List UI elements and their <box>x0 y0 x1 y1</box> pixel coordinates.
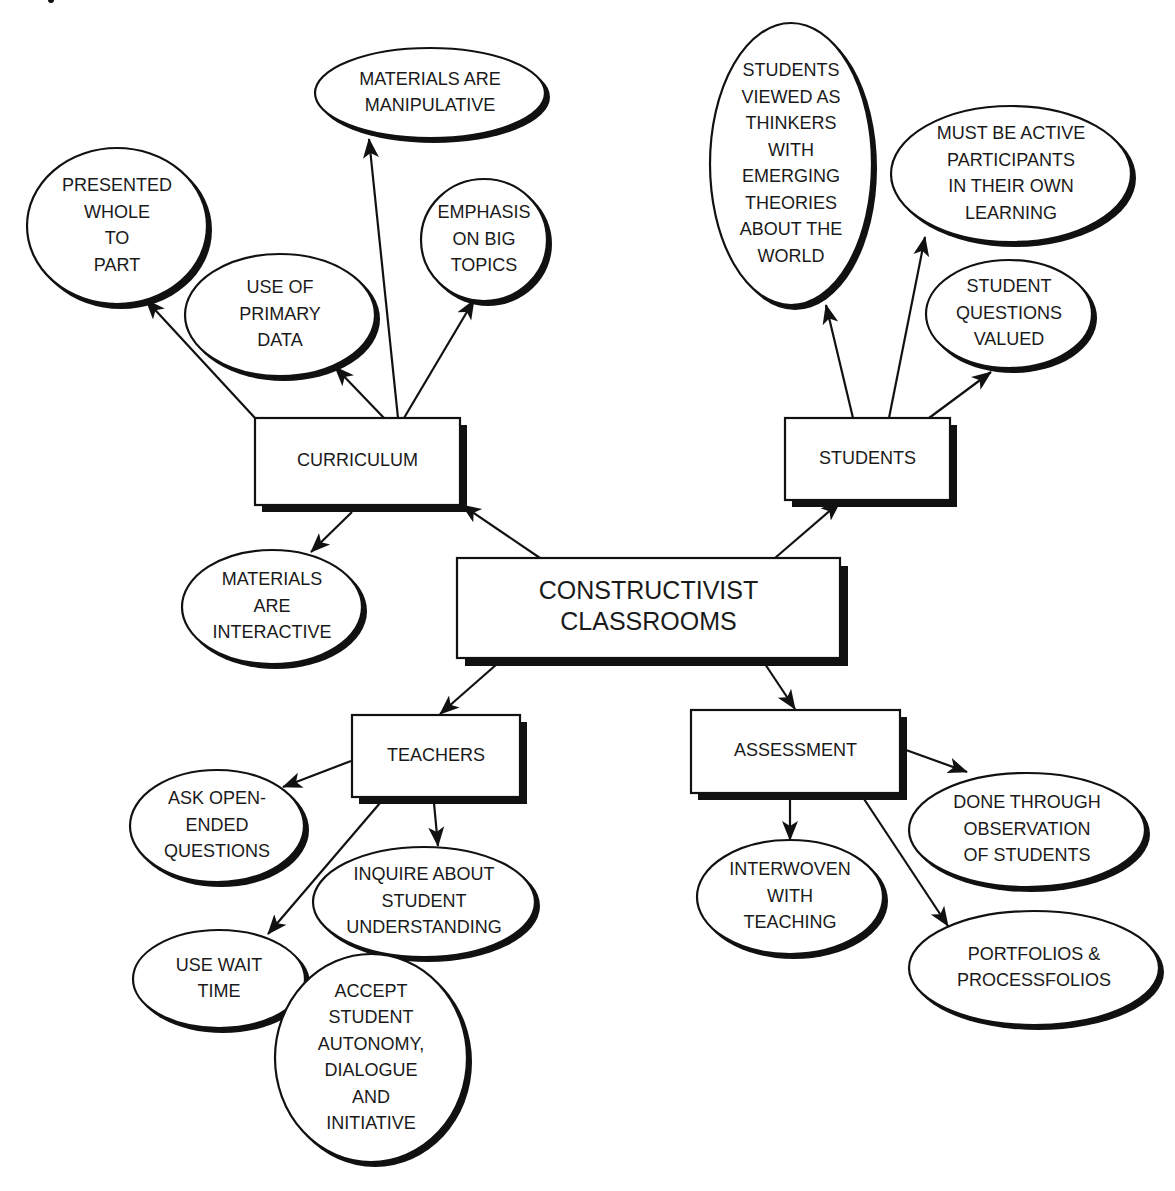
node-label-line: WITH <box>768 140 814 160</box>
arrow-center-to-teachers <box>440 664 497 714</box>
arrow-students-to-viewed <box>826 305 853 418</box>
accept-student-autonomy-node: ACCEPTSTUDENTAUTONOMY,DIALOGUEANDINITIAT… <box>275 954 472 1167</box>
node-label-line: AUTONOMY, <box>318 1034 424 1054</box>
arrow-curriculum-to-interactive <box>311 512 352 552</box>
ask-open-ended-questions-node: ASK OPEN-ENDEDQUESTIONS <box>130 770 309 887</box>
node-label-line: STUDENT <box>329 1007 414 1027</box>
arrow-center-to-students <box>775 502 840 558</box>
node-label-line: MATERIALS <box>222 569 323 589</box>
node-label-line: QUESTIONS <box>164 841 270 861</box>
node-label-line: UNDERSTANDING <box>346 917 502 937</box>
box-label-line: CURRICULUM <box>297 450 418 470</box>
arrow-assessment-to-observation <box>906 750 967 772</box>
teachers-box: TEACHERS <box>352 715 527 804</box>
emphasis-on-big-topics-node: EMPHASISON BIGTOPICS <box>421 179 552 306</box>
node-label-line: DIALOGUE <box>324 1060 417 1080</box>
node-label-line: ASK OPEN- <box>168 788 266 808</box>
node-label-line: MATERIALS ARE <box>359 69 501 89</box>
node-label-line: VALUED <box>974 329 1045 349</box>
students-box: STUDENTS <box>785 418 957 507</box>
arrow-center-to-curriculum <box>462 505 540 558</box>
node-label-line: OBSERVATION <box>963 819 1090 839</box>
node-label-line: INTERACTIVE <box>212 622 331 642</box>
box-label-line: STUDENTS <box>819 448 916 468</box>
node-outline <box>133 930 305 1028</box>
node-label-line: TEACHING <box>743 912 836 932</box>
node-label-line: PRIMARY <box>239 304 321 324</box>
node-label-line: EMPHASIS <box>437 202 530 222</box>
node-label-line: STUDENTS <box>742 60 839 80</box>
node-label-line: USE WAIT <box>176 955 262 975</box>
box-label-line: CONSTRUCTIVIST <box>539 576 758 604</box>
curriculum-box: CURRICULUM <box>255 418 467 512</box>
node-label-line: INQUIRE ABOUT <box>353 864 494 884</box>
node-outline <box>909 911 1159 1025</box>
done-through-observation-node: DONE THROUGHOBSERVATIONOF STUDENTS <box>909 773 1150 892</box>
node-label-line: THINKERS <box>745 113 836 133</box>
node-label-line: PRESENTED <box>62 175 172 195</box>
box-label-line: ASSESSMENT <box>734 740 857 760</box>
node-label-line: THEORIES <box>745 193 837 213</box>
node-label-line: STUDENT <box>382 891 467 911</box>
use-of-primary-data-node: USE OFPRIMARYDATA <box>185 254 380 381</box>
arrow-students-to-questions <box>929 372 991 418</box>
node-label-line: WITH <box>767 886 813 906</box>
arrow-curriculum-to-emphasis <box>404 300 474 418</box>
node-label-line: MUST BE ACTIVE <box>937 123 1086 143</box>
inquire-about-student-understanding-node: INQUIRE ABOUTSTUDENTUNDERSTANDING <box>313 847 540 962</box>
node-label-line: LEARNING <box>965 203 1057 223</box>
node-label-line: PROCESSFOLIOS <box>957 970 1111 990</box>
node-label-line: INTERWOVEN <box>729 859 851 879</box>
node-label-line: AND <box>352 1087 390 1107</box>
node-label-line: ACCEPT <box>334 981 407 1001</box>
node-label-line: TO <box>105 228 130 248</box>
node-label-line: PORTFOLIOS & <box>968 944 1101 964</box>
arrow-students-to-active <box>889 237 925 418</box>
node-label-line: INITIATIVE <box>326 1113 416 1133</box>
node-label-line: EMERGING <box>742 166 840 186</box>
node-label-line: VIEWED AS <box>741 87 840 107</box>
box-label-line: TEACHERS <box>387 745 485 765</box>
node-label-line: MANIPULATIVE <box>365 95 496 115</box>
node-label-line: ABOUT THE <box>740 219 842 239</box>
materials-are-manipulative-node: MATERIALS AREMANIPULATIVE <box>315 48 550 143</box>
node-label-line: DATA <box>257 330 302 350</box>
box-label-line: CLASSROOMS <box>560 607 736 635</box>
node-label-line: TOPICS <box>451 255 518 275</box>
node-label-line: STUDENT <box>967 276 1052 296</box>
node-label-line: PART <box>94 255 140 275</box>
assessment-box: ASSESSMENT <box>691 710 907 800</box>
students-viewed-as-thinkers-node: STUDENTSVIEWED ASTHINKERSWITHEMERGINGTHE… <box>710 23 877 310</box>
interwoven-with-teaching-node: INTERWOVENWITHTEACHING <box>697 840 888 959</box>
node-label-line: WORLD <box>758 246 825 266</box>
materials-are-interactive-node: MATERIALSAREINTERACTIVE <box>182 550 367 669</box>
speck-mark <box>48 0 54 3</box>
concept-map-canvas: CONSTRUCTIVISTCLASSROOMSCURRICULUMSTUDEN… <box>0 0 1175 1191</box>
must-be-active-participants-node: MUST BE ACTIVEPARTICIPANTSIN THEIR OWNLE… <box>891 106 1136 247</box>
node-label-line: QUESTIONS <box>956 303 1062 323</box>
node-label-line: USE OF <box>246 277 313 297</box>
student-questions-valued-node: STUDENTQUESTIONSVALUED <box>926 260 1097 373</box>
constructivist-classrooms-box: CONSTRUCTIVISTCLASSROOMS <box>457 558 848 666</box>
scan-speck <box>48 0 54 3</box>
arrow-center-to-assessment <box>765 664 795 709</box>
portfolios-and-processfolios-node: PORTFOLIOS &PROCESSFOLIOS <box>909 911 1164 1030</box>
node-label-line: ARE <box>253 596 290 616</box>
node-outline <box>315 48 545 138</box>
arrow-curriculum-to-manipulative <box>369 139 398 418</box>
node-outline <box>27 148 207 304</box>
node-label-line: ON BIG <box>452 229 515 249</box>
node-label-line: WHOLE <box>84 202 150 222</box>
arrow-teachers-to-inquire <box>434 803 438 846</box>
node-label-line: TIME <box>198 981 241 1001</box>
node-label-line: ENDED <box>185 815 248 835</box>
node-label-line: OF STUDENTS <box>963 845 1090 865</box>
node-label-line: IN THEIR OWN <box>948 176 1074 196</box>
arrow-teachers-to-openended <box>283 761 351 787</box>
node-label-line: PARTICIPANTS <box>947 150 1075 170</box>
arrow-curriculum-to-primary <box>335 367 384 418</box>
presented-whole-to-part-node: PRESENTEDWHOLETOPART <box>27 148 212 309</box>
node-label-line: DONE THROUGH <box>953 792 1101 812</box>
